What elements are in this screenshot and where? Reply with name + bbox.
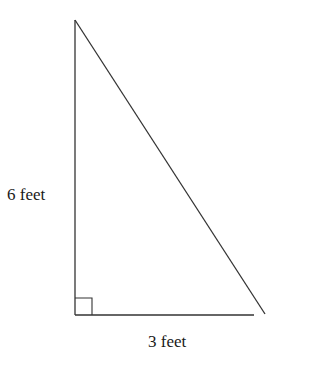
- horizontal-side-label: 3 feet: [148, 332, 187, 351]
- hypotenuse: [75, 20, 265, 314]
- right-angle-marker: [75, 298, 92, 315]
- triangle-diagram: 6 feet 3 feet: [0, 0, 315, 378]
- vertical-side-label: 6 feet: [7, 185, 46, 204]
